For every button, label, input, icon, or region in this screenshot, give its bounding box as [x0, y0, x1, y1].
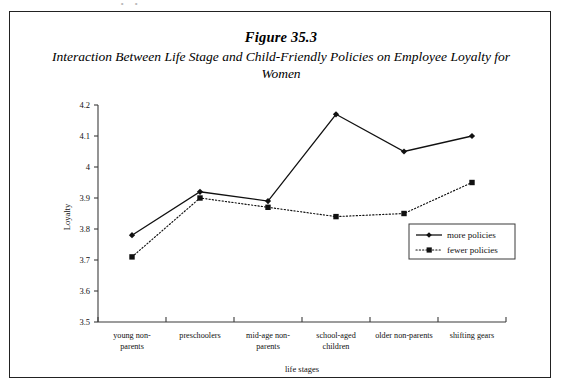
- x-category-label: preschoolers: [179, 331, 220, 340]
- data-point: [197, 195, 202, 200]
- scan-artifact: ∘ ∘: [120, 0, 160, 8]
- y-tick-label: 3.6: [79, 286, 90, 296]
- y-tick-label: 4.1: [79, 131, 90, 141]
- y-tick-label: 4.2: [79, 100, 90, 110]
- chart-svg: 4.24.143.93.83.73.63.5 Loyalty young non…: [10, 12, 552, 379]
- y-tick-label: 4: [86, 162, 91, 172]
- data-point: [469, 133, 475, 139]
- x-axis-category-labels: young non-parentspreschoolersmid-age non…: [113, 331, 494, 351]
- legend-marker-square: [427, 247, 432, 252]
- x-category-label: mid-age non-: [246, 331, 290, 340]
- data-point: [401, 148, 407, 154]
- data-point: [333, 214, 338, 219]
- data-point: [265, 205, 270, 210]
- y-tick-label: 3.9: [79, 193, 90, 203]
- chart-legend: more policies fewer policies: [409, 224, 515, 259]
- data-point: [129, 232, 135, 238]
- x-category-label: school-aged: [316, 331, 356, 340]
- x-category-label: young non-: [113, 331, 151, 340]
- figure-frame: Figure 35.3 Interaction Between Life Sta…: [9, 11, 551, 378]
- x-axis-title: life stages: [285, 364, 319, 374]
- y-tick-label: 3.8: [79, 224, 90, 234]
- x-category-label: older non-parents: [375, 331, 433, 340]
- y-tick-label: 3.7: [79, 255, 90, 265]
- x-category-label: children: [323, 342, 350, 351]
- line-chart: 4.24.143.93.83.73.63.5 Loyalty young non…: [10, 12, 552, 379]
- y-axis-title: Loyalty: [62, 203, 72, 230]
- data-point: [401, 211, 406, 216]
- y-axis-ticks: 4.24.143.93.83.73.63.5: [79, 100, 98, 327]
- data-point: [469, 180, 474, 185]
- x-category-label: shifting gears: [450, 331, 494, 340]
- y-tick-label: 3.5: [79, 317, 90, 327]
- data-point: [129, 254, 134, 259]
- data-point: [197, 189, 203, 195]
- legend-label-fewer-policies: fewer policies: [447, 245, 498, 255]
- x-axis-ticks: [98, 317, 506, 322]
- x-category-label: parents: [120, 342, 144, 351]
- x-category-label: parents: [256, 342, 280, 351]
- series-line-more-policies: [132, 114, 472, 235]
- legend-label-more-policies: more policies: [447, 230, 496, 240]
- series-markers-more-policies: [129, 111, 475, 238]
